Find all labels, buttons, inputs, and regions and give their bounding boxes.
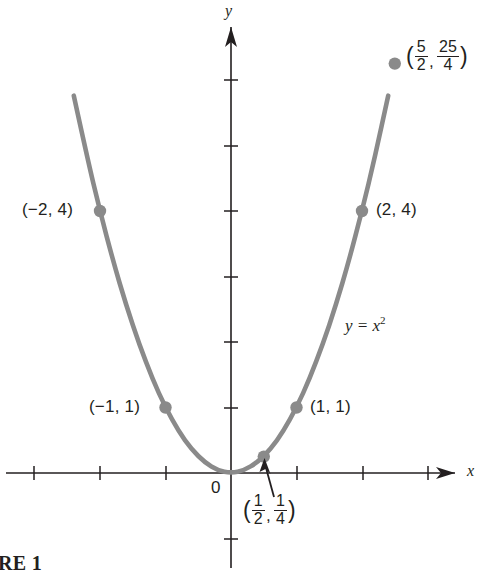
fraction-denominator: 2 bbox=[415, 57, 428, 74]
equation-base: y = x bbox=[345, 316, 380, 335]
point-label-neg1-1: (−1, 1) bbox=[89, 398, 140, 415]
x-axis-label: x bbox=[467, 463, 474, 479]
open-paren: ( bbox=[243, 497, 251, 523]
fraction-numerator: 1 bbox=[252, 493, 265, 511]
open-paren: ( bbox=[406, 43, 414, 69]
fraction-numerator: 1 bbox=[274, 493, 287, 511]
close-paren: ) bbox=[460, 43, 468, 69]
point-1-1[interactable] bbox=[290, 401, 302, 413]
label-comma: , bbox=[266, 506, 271, 525]
equation-label: y = x2 bbox=[345, 317, 386, 334]
point-2-4[interactable] bbox=[356, 205, 368, 217]
point-neg2-4[interactable] bbox=[94, 205, 106, 217]
y-axis-label: y bbox=[225, 3, 232, 19]
label-comma: , bbox=[429, 52, 434, 71]
point-5over2-25over4[interactable] bbox=[389, 57, 401, 69]
figure-caption: RE 1 bbox=[0, 552, 42, 574]
fraction-one-half: 12 bbox=[252, 493, 265, 527]
equation-exponent: 2 bbox=[380, 314, 386, 326]
figure-container: y x 0 (−2, 4) (−1, 1) (1, 1) (2, 4) y = … bbox=[0, 0, 495, 574]
point-label-1-1: (1, 1) bbox=[310, 398, 351, 415]
fraction-denominator: 4 bbox=[274, 511, 287, 528]
fraction-twentyfive-fourths: 254 bbox=[437, 39, 459, 73]
fraction-five-halves: 52 bbox=[415, 39, 428, 73]
point-neg1-1[interactable] bbox=[159, 401, 171, 413]
fraction-numerator: 5 bbox=[415, 39, 428, 57]
point-label-5over2-25over4: (52,254) bbox=[406, 40, 468, 74]
close-paren: ) bbox=[288, 497, 296, 523]
fraction-one-quarter: 14 bbox=[274, 493, 287, 527]
point-label-half-quarter: (12,14) bbox=[243, 494, 296, 528]
fraction-denominator: 2 bbox=[252, 511, 265, 528]
origin-label: 0 bbox=[211, 479, 220, 496]
point-label-2-4: (2, 4) bbox=[376, 201, 417, 218]
point-label-neg2-4: (−2, 4) bbox=[22, 201, 73, 218]
fraction-denominator: 4 bbox=[437, 57, 459, 74]
parabola-plot bbox=[0, 0, 495, 574]
fraction-numerator: 25 bbox=[437, 39, 459, 57]
